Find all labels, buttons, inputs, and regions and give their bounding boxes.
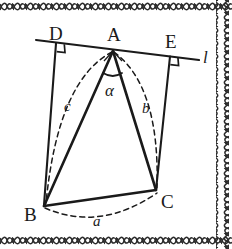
border-right — [216, 0, 229, 249]
side-label-a: a — [93, 214, 101, 229]
border-top — [0, 1, 232, 14]
side-label-b: b — [142, 101, 150, 116]
point-label-a: A — [107, 25, 121, 44]
point-label-e: E — [165, 32, 177, 51]
segment-ec — [156, 57, 170, 191]
segment-ac — [113, 51, 156, 190]
side-label-c: c — [64, 99, 71, 114]
segment-bc — [44, 190, 156, 206]
right-angle-mark-e — [170, 57, 178, 65]
point-label-b: B — [24, 205, 37, 224]
border-bottom — [0, 233, 232, 246]
point-label-c: C — [161, 192, 174, 211]
figure-canvas: D A E l B C α c b a — [0, 0, 232, 249]
angle-label-alpha: α — [105, 82, 114, 99]
point-label-d: D — [49, 24, 63, 43]
right-angle-mark-d — [57, 44, 65, 52]
line-label-l: l — [203, 49, 208, 66]
